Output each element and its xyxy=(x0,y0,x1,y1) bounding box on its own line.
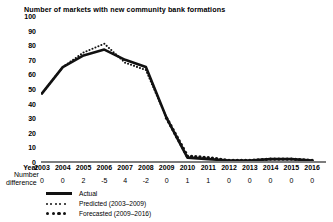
x-axis-tick-2005: 2005 xyxy=(76,164,92,171)
x-axis-tick-2008: 2008 xyxy=(138,164,154,171)
data-point xyxy=(103,43,105,45)
data-point xyxy=(142,68,144,70)
number-difference-value-2010: 1 xyxy=(185,177,189,184)
legend-label: Actual xyxy=(79,190,97,197)
y-axis-labels: 0102030405060708090100 xyxy=(0,16,39,162)
number-difference-label-line1: Number xyxy=(14,171,52,178)
data-point xyxy=(97,45,99,47)
data-point xyxy=(83,51,85,53)
data-point xyxy=(100,44,102,46)
x-axis-tick-2013: 2013 xyxy=(242,164,258,171)
number-difference-value-2015: 0 xyxy=(289,177,293,184)
number-difference-value-2004: 0 xyxy=(61,177,65,184)
x-axis-tick-2003: 2003 xyxy=(34,164,50,171)
data-point xyxy=(136,66,138,68)
number-difference-value-2014: 0 xyxy=(269,177,273,184)
chart-plot-svg xyxy=(41,16,324,162)
x-axis-tick-2010: 2010 xyxy=(180,164,196,171)
y-axis-tick-50: 50 xyxy=(28,86,36,93)
data-point xyxy=(127,63,129,65)
number-difference-value-2003: 0 xyxy=(40,177,44,184)
legend-label: Predicted (2003–2009) xyxy=(79,200,146,207)
data-point xyxy=(133,65,135,67)
y-axis-tick-100: 100 xyxy=(24,13,36,20)
year-row-label: Year xyxy=(2,164,38,171)
y-axis-tick-70: 70 xyxy=(28,56,36,63)
data-point xyxy=(139,67,141,69)
data-point xyxy=(110,49,112,51)
x-axis-baseline xyxy=(41,161,326,163)
number-difference-value-2011: 1 xyxy=(206,177,210,184)
y-axis-tick-60: 60 xyxy=(28,71,36,78)
number-difference-value-2016: 0 xyxy=(310,177,314,184)
legend-key-fine-dotted xyxy=(46,199,72,208)
x-axis-tick-2014: 2014 xyxy=(263,164,279,171)
y-axis-tick-30: 30 xyxy=(28,115,36,122)
number-difference-value-2005: 2 xyxy=(82,177,86,184)
plot-area xyxy=(41,16,324,162)
data-point xyxy=(91,48,93,50)
number-difference-label-line2: difference xyxy=(6,179,44,186)
number-difference-value-2008: -2 xyxy=(143,177,149,184)
x-axis-tick-2012: 2012 xyxy=(221,164,237,171)
data-point xyxy=(88,49,90,51)
data-point xyxy=(130,64,132,66)
legend-label: Forecasted (2009–2016) xyxy=(79,210,151,217)
legend-key-thick-dotted xyxy=(46,209,72,218)
y-axis-tick-90: 90 xyxy=(28,27,36,34)
data-point xyxy=(108,47,110,49)
actual-line xyxy=(42,50,312,161)
y-axis-tick-20: 20 xyxy=(28,129,36,136)
y-axis-tick-10: 10 xyxy=(28,144,36,151)
x-axis-tick-2004: 2004 xyxy=(55,164,71,171)
number-difference-row: Number difference 002-54-201100000 xyxy=(0,177,333,187)
x-axis-tick-2006: 2006 xyxy=(97,164,113,171)
y-axis-tick-40: 40 xyxy=(28,100,36,107)
chart-title: Number of markets with new community ban… xyxy=(24,5,225,14)
x-axis-tick-2009: 2009 xyxy=(159,164,175,171)
number-difference-value-2013: 0 xyxy=(248,177,252,184)
number-difference-value-2012: 0 xyxy=(227,177,231,184)
data-point xyxy=(106,45,108,47)
data-point xyxy=(124,62,126,64)
number-difference-value-2006: -5 xyxy=(101,177,107,184)
x-axis-tick-2007: 2007 xyxy=(117,164,133,171)
series-actual xyxy=(42,50,312,161)
chart-container: Number of markets with new community ban… xyxy=(0,0,333,222)
data-point xyxy=(85,50,87,52)
x-axis-tick-2011: 2011 xyxy=(201,164,216,171)
y-axis-tick-80: 80 xyxy=(28,42,36,49)
number-difference-value-2007: 4 xyxy=(123,177,127,184)
x-axis-tick-2015: 2015 xyxy=(284,164,300,171)
legend-key-solid xyxy=(46,189,72,198)
number-difference-value-2009: 0 xyxy=(165,177,169,184)
series-predicted xyxy=(41,43,168,120)
data-point xyxy=(94,46,96,48)
x-axis-tick-2016: 2016 xyxy=(304,164,320,171)
